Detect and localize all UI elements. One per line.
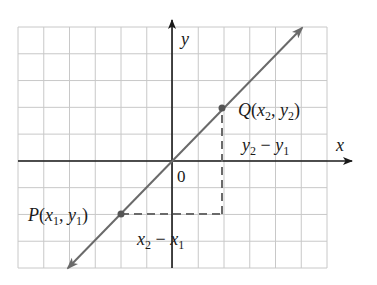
rise-label: y2 − y1 — [240, 135, 289, 158]
x-axis-label: x — [335, 135, 344, 155]
point-P-label: P(x1, y1) — [27, 205, 88, 228]
point-Q — [219, 105, 226, 112]
point-P — [118, 211, 125, 218]
point-Q-label: Q(x2, y2) — [238, 100, 300, 123]
coordinate-plane-diagram: y x 0 Q(x2, y2) P(x1, y1) y2 − y1 x2 − x… — [0, 0, 377, 285]
y-axis-label: y — [179, 29, 189, 49]
run-label: x2 − x1 — [136, 229, 184, 252]
origin-label: 0 — [177, 167, 186, 186]
